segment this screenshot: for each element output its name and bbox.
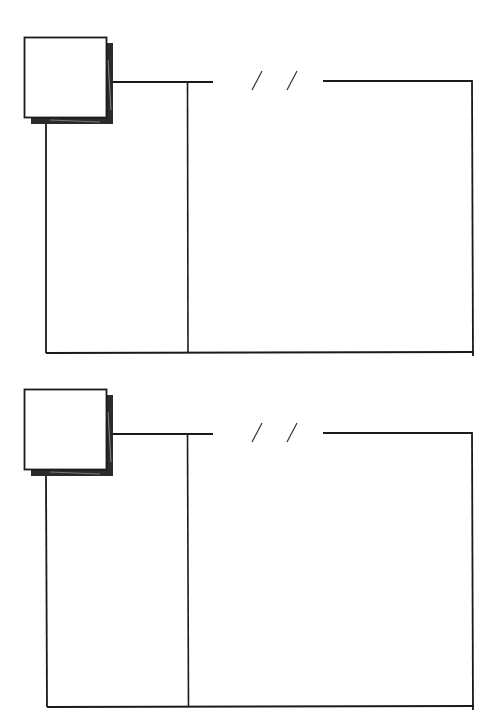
frame-left-edge	[46, 476, 47, 707]
left-column-area[interactable]	[48, 477, 187, 706]
entry-frame-1	[0, 0, 492, 360]
journal-entry-panel-2: / /	[0, 352, 492, 712]
date-placeholder: / /	[250, 422, 251, 423]
photo-box[interactable]	[25, 38, 107, 118]
column-divider	[188, 82, 189, 353]
photo-box[interactable]	[25, 390, 107, 470]
date-placeholder: / /	[250, 70, 251, 71]
frame-right-edge	[472, 80, 473, 356]
frame-right-edge	[472, 432, 473, 710]
notes-area[interactable]	[189, 83, 471, 352]
entry-frame-2	[0, 352, 492, 717]
journal-entry-panel-1: / /	[0, 0, 492, 360]
left-column-area[interactable]	[47, 125, 187, 352]
notes-area[interactable]	[190, 435, 471, 706]
column-divider	[188, 434, 189, 707]
frame-bottom-edge	[47, 706, 474, 707]
